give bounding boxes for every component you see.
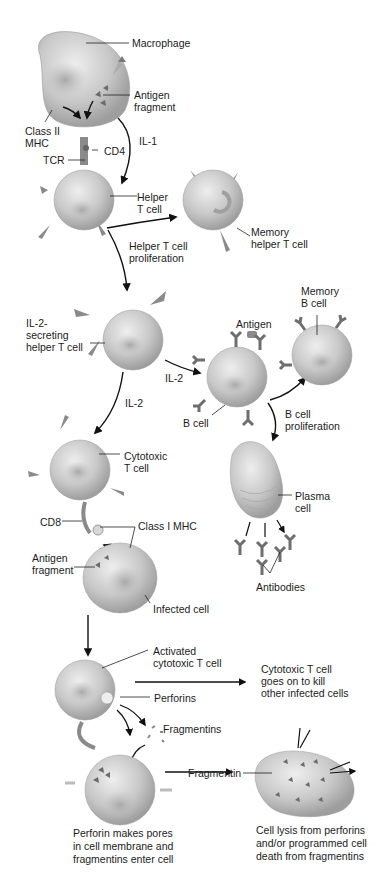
macrophage-cell <box>38 32 129 127</box>
label-b-cell-proliferation: B cell proliferation <box>285 408 340 432</box>
plasma-cell <box>230 442 282 518</box>
label-plasma-cell: Plasma cell <box>295 490 330 514</box>
label-cytotoxic-t-cell: Cytotoxic T cell <box>124 450 167 474</box>
label-antigen: Antigen <box>236 318 272 330</box>
label-il1: IL-1 <box>139 135 157 147</box>
label-cd4: CD4 <box>104 145 125 157</box>
antibodies <box>235 535 295 575</box>
memory-b-cell <box>280 315 352 385</box>
label-antigen-fragment-bottom: Antigen fragment <box>32 552 73 576</box>
label-tcr: TCR <box>43 154 65 166</box>
infected-cell <box>83 543 157 613</box>
label-fragmentin: Fragmentin <box>188 767 241 779</box>
label-il2-down: IL-2 <box>125 397 143 409</box>
label-helper-t-cell: Helper T cell <box>137 191 168 215</box>
label-cytotoxic-goes-on: Cytotoxic T cell goes on to kill other i… <box>261 663 349 699</box>
label-memory-b-cell: Memory B cell <box>301 285 339 309</box>
label-macrophage: Macrophage <box>132 37 190 49</box>
b-cell <box>193 331 267 425</box>
label-antigen-fragment-top: Antigen fragment <box>134 89 175 113</box>
label-perforins: Perforins <box>154 692 196 704</box>
label-il2-right: IL-2 <box>165 372 183 384</box>
label-b-cell: B cell <box>183 417 209 429</box>
label-antibodies: Antibodies <box>256 581 305 593</box>
label-fragmentins: Fragmentins <box>163 723 221 735</box>
label-memory-helper-t-cell: Memory helper T cell <box>251 226 308 250</box>
label-helper-t-proliferation: Helper T cell proliferation <box>129 240 188 264</box>
label-cd8: CD8 <box>40 516 61 528</box>
label-class-i-mhc: Class I MHC <box>138 520 197 532</box>
helper-t-cell <box>38 170 114 239</box>
label-class-ii-mhc: Class II MHC <box>25 125 60 149</box>
label-infected-cell: Infected cell <box>153 603 209 615</box>
label-il2-secreting-helper-t-cell: IL-2- secreting helper T cell <box>26 317 83 353</box>
lysed-cell <box>255 751 354 817</box>
cytotoxic-t-cell <box>28 415 124 500</box>
target-cell <box>65 755 172 825</box>
il2-secreting-helper-t-cell <box>74 291 166 370</box>
caption-cell-lysis: Cell lysis from perforins and/or program… <box>256 824 367 863</box>
label-activated-cytotoxic-t-cell: Activated cytotoxic T cell <box>153 645 221 669</box>
memory-helper-t-cell <box>183 170 243 252</box>
activated-cytotoxic-t-cell <box>55 660 115 720</box>
caption-perforin-pores: Perforin makes pores in cell membrane an… <box>73 827 173 866</box>
